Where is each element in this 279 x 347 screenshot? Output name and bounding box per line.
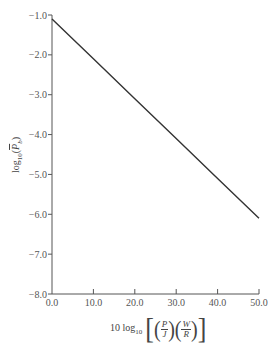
x-axis-title-log: 10 log	[110, 322, 135, 333]
left-paren: (	[175, 318, 182, 341]
x-tick-label: 10.0	[85, 297, 103, 308]
x-ticks: 0.010.020.030.040.050.0	[46, 289, 268, 308]
y-axis-title-var: P	[10, 144, 21, 150]
fraction-numerator: W	[181, 320, 191, 330]
y-tick-label: −5.0	[29, 169, 47, 180]
y-tick-label: −8.0	[29, 289, 47, 300]
x-tick-label: 30.0	[167, 297, 185, 308]
fraction-numerator: P	[161, 320, 169, 330]
x-tick-label: 20.0	[126, 297, 144, 308]
y-axis-title-sub: 10	[16, 153, 24, 160]
y-axis-title-log: log	[10, 160, 21, 173]
chart-canvas: −1.0−2.0−3.0−4.0−5.0−6.0−7.0−8.0 0.010.0…	[0, 0, 279, 347]
x-tick-label: 0.0	[46, 297, 59, 308]
y-ticks: −1.0−2.0−3.0−4.0−5.0−6.0−7.0−8.0	[29, 10, 52, 300]
y-tick-label: −3.0	[29, 89, 47, 100]
right-bracket: ]	[198, 315, 207, 344]
fraction-p-over-j: P J	[161, 320, 169, 339]
x-axis-title: 10 log10 [ ( P J ) ( W R ) ]	[110, 316, 206, 342]
fraction-denominator: R	[183, 330, 189, 339]
y-tick-label: −7.0	[29, 249, 47, 260]
y-tick-label: −6.0	[29, 209, 47, 220]
left-bracket: [	[145, 315, 154, 344]
y-axis-title-var-sub: b	[16, 140, 24, 144]
y-tick-label: −4.0	[29, 129, 47, 140]
right-paren: )	[191, 318, 198, 341]
y-tick-label: −1.0	[29, 10, 47, 21]
fraction-denominator: J	[162, 330, 166, 339]
left-paren: (	[154, 318, 161, 341]
x-axis-title-sub: 10	[135, 328, 142, 336]
right-paren: )	[168, 318, 175, 341]
y-axis-title: log10(Pb)	[10, 137, 24, 173]
fraction-w-over-r: W R	[181, 320, 191, 339]
x-tick-label: 50.0	[250, 297, 268, 308]
x-tick-label: 40.0	[209, 297, 227, 308]
x-axis-title-expression: [ ( P J ) ( W R ) ]	[145, 316, 206, 342]
axes	[52, 15, 259, 294]
data-line	[52, 19, 259, 218]
y-tick-label: −2.0	[29, 49, 47, 60]
